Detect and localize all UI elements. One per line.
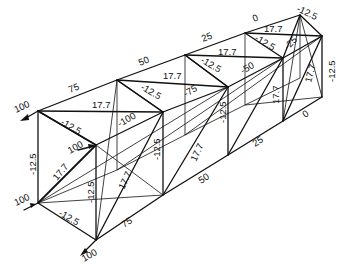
front-diag-label: 17.7 [50, 161, 70, 182]
bottom-chord-label-1: 75 [119, 215, 134, 230]
top-diag-label-4: 17.7 [264, 23, 283, 34]
end-vertical-label: -12.5 [326, 60, 337, 82]
end-diag-label: 17.7 [302, 63, 317, 84]
space-truss-diagram: 100 100 100 100 75 50 25 0 17.7 17.7 17.… [0, 0, 348, 272]
top-cross-label-1: -12.5 [59, 116, 83, 136]
front-inner-vertical-label: -12.5 [85, 181, 96, 203]
top-cross-label-4: -12.5 [253, 32, 277, 52]
side-vert-label-1: -12.5 [151, 138, 162, 160]
bottom-chord-label-4: 0 [300, 108, 310, 120]
top-diag-label-2: 17.7 [163, 70, 182, 81]
side-vert-label-2: -12.5 [217, 101, 228, 123]
top-diag-label-1: 17.7 [92, 99, 111, 110]
top-diag-label-3: 17.7 [218, 46, 237, 57]
top-chord-label-2: 50 [137, 54, 151, 68]
load-label-mid-left: 100 [12, 191, 31, 208]
side-diag-label-2: 17.7 [188, 141, 206, 162]
front-bottom-label: -12.5 [57, 207, 81, 227]
side-diag-label-3: 17.7 [270, 86, 281, 105]
top-chord-label-4: 0 [251, 12, 260, 24]
top-chord-label-1: 75 [67, 81, 81, 95]
load-label-top-left: 100 [12, 98, 31, 115]
load-label-bottom: 100 [80, 246, 99, 263]
bottom-chord-label-3: 25 [250, 134, 265, 149]
front-vertical-label: -12.5 [27, 153, 38, 175]
load-label-front-inner: 100 [66, 138, 85, 155]
top-cross-label-3: -12.5 [199, 54, 223, 74]
top-chord-label-3: 25 [200, 30, 214, 44]
force-labels: 100 100 100 100 75 50 25 0 17.7 17.7 17.… [12, 3, 337, 264]
